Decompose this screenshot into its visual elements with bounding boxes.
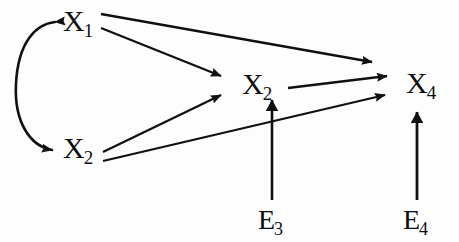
edge-x1-x4 <box>101 14 372 62</box>
node-label-x3: X2 <box>242 69 273 99</box>
edge-x1-x2-feedback <box>16 22 55 150</box>
node-subscript-x2: 2 <box>84 147 94 168</box>
error-label-e3: E3 <box>258 206 284 234</box>
node-subscript-x4: 4 <box>427 82 437 103</box>
node-subscript-x3: 2 <box>263 83 273 104</box>
node-label-x4: X4 <box>406 68 437 98</box>
edge-x1-x3 <box>101 28 221 76</box>
error-label-e4: E4 <box>403 206 429 234</box>
edge-x2-x4 <box>103 95 385 161</box>
error-subscript-e4: 4 <box>419 219 428 239</box>
edge-x2-x3 <box>103 95 221 152</box>
node-label-x1: X1 <box>63 6 94 36</box>
node-label-x2: X2 <box>63 133 94 163</box>
node-subscript-x1: 1 <box>84 20 94 41</box>
edge-x3-x4 <box>288 76 387 88</box>
path-diagram-canvas: X1 X2 X2 X4 E3 E4 <box>0 0 459 242</box>
error-subscript-e3: 3 <box>274 219 283 239</box>
